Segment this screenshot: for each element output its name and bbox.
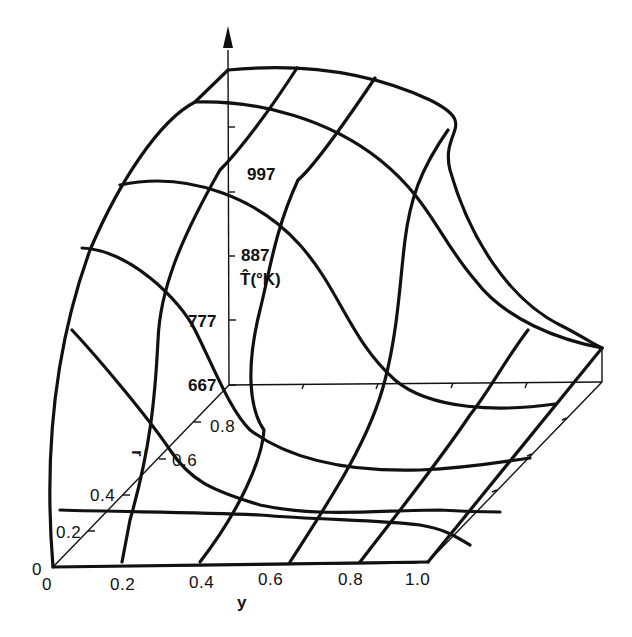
mesh-line-r xyxy=(72,330,500,512)
mesh-line-y xyxy=(360,330,528,562)
r-tick-label: 0.8 xyxy=(210,417,235,436)
z-tick-label: 887 xyxy=(241,246,269,265)
mesh-line-y xyxy=(290,130,448,562)
back-tick xyxy=(525,383,527,388)
mesh-boundary-front xyxy=(53,562,428,567)
back-floor-edge xyxy=(229,382,602,385)
mesh-line-r xyxy=(60,510,470,545)
back-tick xyxy=(376,384,378,389)
y-tick-label: 0.6 xyxy=(258,570,283,589)
y-tick-label: 0.4 xyxy=(189,573,214,592)
z-tick-label: 777 xyxy=(188,312,216,331)
y-tick-label: 0.2 xyxy=(110,575,135,594)
z-axis-label: T̂(°K) xyxy=(240,269,281,289)
y-tick-label: 0.8 xyxy=(338,570,363,589)
z-axis-arrow-icon xyxy=(223,26,233,48)
r-tick-label: 0.6 xyxy=(172,451,197,470)
r-tick-label: 0.4 xyxy=(90,486,115,505)
z-tick-label: 667 xyxy=(188,376,216,395)
y-tick-label: 1.0 xyxy=(405,570,430,589)
r-tick-label: 0.2 xyxy=(56,523,81,542)
surface-mesh xyxy=(50,68,602,567)
r-tick-label: 0 xyxy=(32,560,42,579)
r-axis-label: r̄ xyxy=(128,449,147,457)
y-tick-label: 0 xyxy=(42,575,52,594)
z-tick-label: 997 xyxy=(247,165,275,184)
z-axis-line xyxy=(228,50,229,385)
y-tick-labels: 0 0.2 0.4 0.6 0.8 1.0 xyxy=(42,570,430,594)
mesh-boundary-top xyxy=(228,68,602,348)
surface-plot: 667 777 887 997 T̂(°K) 0 0.2 0.4 0.6 0.8… xyxy=(0,0,632,637)
mesh-boundary-right xyxy=(428,348,602,562)
r-ticks xyxy=(88,422,201,531)
y-axis-label: y xyxy=(237,593,247,612)
